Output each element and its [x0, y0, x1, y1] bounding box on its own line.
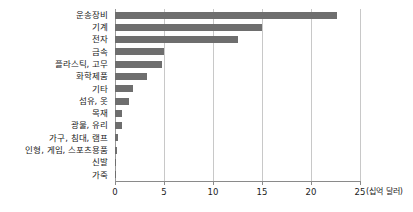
bar: [115, 48, 164, 55]
x-axis-tick: [311, 181, 312, 185]
x-axis-tick: [360, 181, 361, 185]
bar: [115, 159, 116, 166]
bar-row: [115, 9, 360, 21]
x-axis-tick-label: 10: [208, 188, 219, 197]
category-label: 기타: [0, 83, 112, 95]
x-axis-unit-label: (십억 달러): [366, 188, 403, 196]
bar-row: [115, 70, 360, 82]
x-axis-tick-label: 5: [161, 188, 166, 197]
x-axis-tick-label: 25: [355, 188, 366, 197]
category-label: 기계: [0, 21, 112, 33]
bar-row: [115, 144, 360, 156]
x-axis-tick-label: 15: [257, 188, 268, 197]
bar-rows: [115, 9, 360, 181]
plot-area: [115, 9, 360, 181]
category-label: 가죽: [0, 169, 112, 181]
bar-row: [115, 34, 360, 46]
bar: [115, 110, 122, 117]
gridline: [360, 9, 361, 181]
category-label: 광물, 유리: [0, 120, 112, 132]
category-label: 신발: [0, 156, 112, 168]
bar: [115, 12, 337, 19]
bar: [115, 73, 147, 80]
bar: [115, 36, 238, 43]
x-axis-tick: [213, 181, 214, 185]
bar-row: [115, 120, 360, 132]
category-axis-labels: 운송장비 기계 전자 금속 플라스틱, 고무 화학제품 기타 섬유, 옷 목재 …: [0, 9, 112, 181]
bar-row: [115, 156, 360, 168]
x-axis-tick: [262, 181, 263, 185]
bar-row: [115, 58, 360, 70]
bar: [115, 122, 122, 129]
x-axis-tick-label: 20: [306, 188, 317, 197]
category-label: 금속: [0, 46, 112, 58]
category-label: 전자: [0, 34, 112, 46]
x-axis-line: [115, 181, 361, 182]
bar-row: [115, 132, 360, 144]
x-axis-tick-label: 0: [112, 188, 117, 197]
bar-row: [115, 21, 360, 33]
bar-row: [115, 83, 360, 95]
bar: [115, 171, 116, 178]
bar: [115, 147, 117, 154]
x-axis-tick: [164, 181, 165, 185]
bar-row: [115, 95, 360, 107]
bar: [115, 85, 133, 92]
category-label: 섬유, 옷: [0, 95, 112, 107]
bar: [115, 61, 162, 68]
bar-row: [115, 107, 360, 119]
category-label: 가구, 침대, 램프: [0, 132, 112, 144]
bar: [115, 134, 118, 141]
bar: [115, 98, 129, 105]
category-label: 화학제품: [0, 70, 112, 82]
category-label: 목재: [0, 107, 112, 119]
bar-chart: 운송장비 기계 전자 금속 플라스틱, 고무 화학제품 기타 섬유, 옷 목재 …: [0, 0, 413, 212]
bar: [115, 24, 262, 31]
category-label: 인형, 게임, 스포츠용품: [0, 144, 112, 156]
bar-row: [115, 169, 360, 181]
category-label: 플라스틱, 고무: [0, 58, 112, 70]
category-label: 운송장비: [0, 9, 112, 21]
x-axis-tick: [115, 181, 116, 185]
bar-row: [115, 46, 360, 58]
x-axis-tick-labels: 0510152025: [0, 188, 413, 202]
